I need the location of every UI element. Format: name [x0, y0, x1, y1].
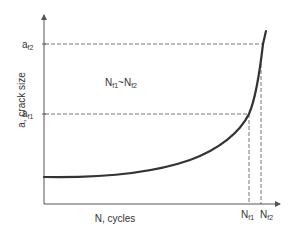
af2-label: af2	[22, 39, 34, 51]
nf-range-annotation: Nf1~Nf2	[105, 77, 137, 89]
nf1-label: Nf1	[241, 209, 254, 221]
y-axis-label: a, crack size	[16, 72, 27, 128]
crack-growth-curve	[44, 31, 266, 177]
af1-label: af1	[22, 108, 34, 120]
x-axis-label: N, cycles	[95, 213, 136, 224]
nf2-label: Nf2	[260, 209, 273, 221]
crack-growth-chart: a, crack size N, cycles af2 af1 Nf1~Nf2 …	[0, 0, 296, 238]
